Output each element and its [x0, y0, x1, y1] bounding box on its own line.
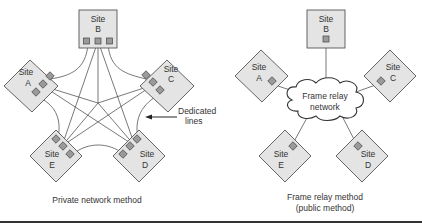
port-icon [107, 38, 113, 44]
site-e-node: Site E [259, 130, 311, 182]
svg-text:C: C [390, 73, 396, 83]
site-c-node: Site C [364, 50, 416, 102]
private-network-diagram: Site B Site A Site C Site [4, 10, 217, 205]
dedicated-lines-star [43, 41, 153, 146]
svg-text:E: E [49, 160, 55, 170]
frame-relay-cloud: Frame relay network [287, 78, 363, 121]
svg-text:Site: Site [386, 62, 401, 72]
port-icon [84, 38, 90, 44]
arrow-left-icon [145, 115, 152, 120]
network-comparison-diagram: Site B Site A Site C Site [0, 0, 422, 224]
svg-text:B: B [95, 24, 101, 34]
site-a-node: Site A [235, 50, 288, 102]
svg-text:Site: Site [252, 62, 267, 72]
svg-text:Frame relay: Frame relay [302, 91, 348, 101]
site-c-node: Site C [140, 60, 194, 112]
svg-text:Site: Site [361, 149, 376, 159]
svg-text:B: B [323, 24, 329, 34]
port-icon [323, 36, 329, 42]
private-network-caption: Private network method [52, 195, 142, 205]
frame-relay-caption-line2: (public method) [296, 203, 355, 213]
svg-text:Site: Site [164, 64, 179, 74]
svg-text:Site: Site [274, 149, 289, 159]
svg-text:Site: Site [45, 149, 60, 159]
site-d-node: Site D [113, 130, 165, 182]
svg-text:E: E [278, 160, 284, 170]
frame-relay-caption-line1: Frame relay method [287, 192, 363, 202]
svg-text:D: D [365, 160, 371, 170]
svg-text:Site: Site [91, 14, 106, 24]
svg-text:C: C [168, 74, 174, 84]
site-a-node: Site A [4, 60, 58, 112]
site-b-node: Site B [79, 10, 117, 48]
svg-text:D: D [142, 160, 148, 170]
svg-text:Site: Site [19, 67, 34, 77]
svg-text:Site: Site [140, 149, 155, 159]
bottom-rule [0, 221, 422, 223]
svg-text:A: A [256, 73, 262, 83]
svg-text:lines: lines [185, 116, 202, 126]
frame-relay-diagram: Frame relay network Site B Site A Site C [235, 10, 416, 213]
svg-text:Site: Site [319, 14, 334, 24]
svg-text:A: A [25, 78, 31, 88]
site-d-node: Site D [336, 130, 388, 182]
svg-text:network: network [310, 102, 341, 112]
site-b-node: Site B [307, 10, 345, 48]
dedicated-lines-annotation: Dedicated lines [145, 106, 217, 126]
port-icon [95, 38, 101, 44]
svg-text:Dedicated: Dedicated [178, 106, 217, 116]
